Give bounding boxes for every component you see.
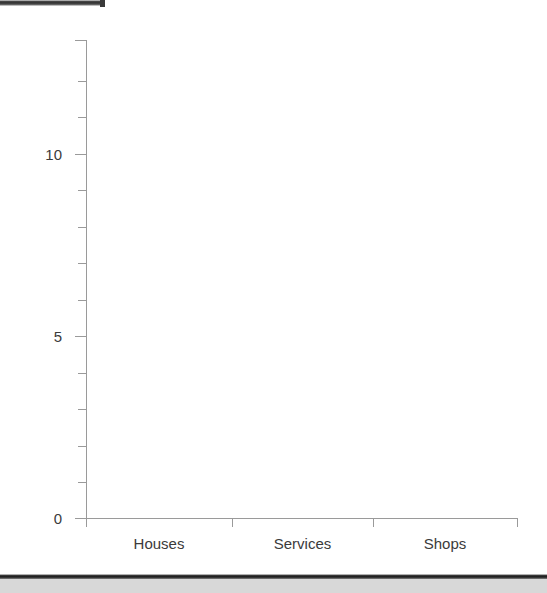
- y-axis-tick: [75, 336, 86, 337]
- x-axis-label-houses: Houses: [86, 536, 232, 551]
- y-axis-tick: [78, 446, 86, 447]
- y-axis-tick: [78, 373, 86, 374]
- x-axis-tick: [86, 518, 87, 527]
- y-axis-tick: [78, 300, 86, 301]
- y-axis-tick: [78, 227, 86, 228]
- x-axis-label-services: Services: [232, 536, 373, 551]
- bottom-status-band: [0, 579, 547, 593]
- y-axis-tick-label-10: 10: [22, 147, 62, 162]
- bar-chart-figure: 10 5 0 Houses Services Shops: [0, 0, 547, 570]
- y-axis-tick-label-0: 0: [22, 511, 62, 526]
- plot-area: [87, 40, 517, 518]
- x-axis-label-shops: Shops: [373, 536, 517, 551]
- x-axis-line: [86, 518, 517, 519]
- y-axis-tick: [75, 518, 86, 519]
- x-axis-tick: [373, 518, 374, 527]
- x-axis-tick: [517, 518, 518, 527]
- y-axis-tick: [78, 409, 86, 410]
- y-axis-tick: [75, 154, 86, 155]
- y-axis-tick: [75, 40, 86, 41]
- y-axis-tick: [78, 482, 86, 483]
- x-axis-tick: [232, 518, 233, 527]
- y-axis-line: [86, 40, 87, 519]
- y-axis-tick: [78, 190, 86, 191]
- y-axis-tick: [78, 117, 86, 118]
- y-axis-tick: [78, 263, 86, 264]
- y-axis-tick: [78, 81, 86, 82]
- y-axis-tick-label-5: 5: [22, 329, 62, 344]
